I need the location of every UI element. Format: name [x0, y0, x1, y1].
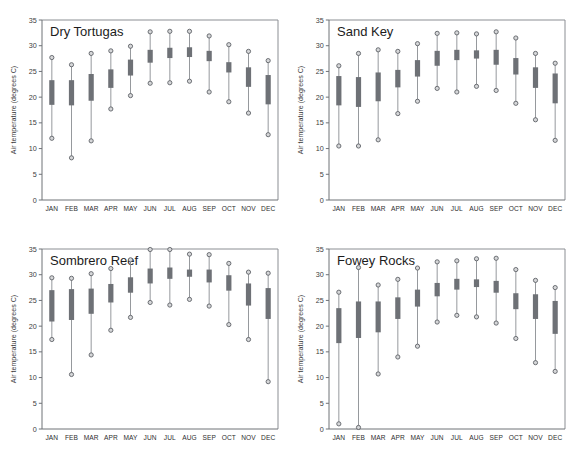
panel-dry-tortugas: 05101520253035Air temperature (degrees C…	[0, 0, 287, 229]
y-tick-label: 0	[33, 196, 37, 205]
interquartile-bar	[49, 80, 54, 105]
min-marker	[514, 101, 518, 105]
x-tick-label: FEB	[65, 434, 79, 441]
min-marker	[474, 84, 478, 88]
interquartile-bar	[266, 75, 271, 104]
box-group	[187, 29, 192, 83]
x-tick-label: NOV	[241, 205, 256, 212]
x-tick-label: NOV	[528, 205, 543, 212]
interquartile-bar	[415, 60, 420, 76]
min-marker	[376, 138, 380, 142]
min-marker	[533, 118, 537, 122]
min-marker	[128, 94, 132, 98]
max-marker	[168, 247, 172, 251]
x-tick-label: MAR	[84, 205, 99, 212]
max-marker	[69, 276, 73, 280]
max-marker	[109, 266, 113, 270]
interquartile-bar	[187, 270, 192, 277]
y-axis-label: Air temperature (degrees C)	[297, 295, 305, 383]
y-tick-label: 25	[316, 67, 324, 76]
interquartile-bar	[266, 288, 271, 319]
interquartile-bar	[226, 62, 231, 72]
box-group	[148, 30, 153, 86]
max-marker	[69, 63, 73, 67]
box-group	[494, 30, 499, 93]
x-tick-label: MAR	[371, 205, 386, 212]
interquartile-bar	[167, 48, 172, 58]
x-tick-label: AUG	[182, 205, 197, 212]
min-marker	[109, 328, 113, 332]
x-tick-label: DEC	[548, 434, 562, 441]
max-marker	[109, 49, 113, 53]
min-marker	[376, 372, 380, 376]
y-tick-label: 15	[29, 118, 37, 127]
x-tick-label: JUN	[431, 434, 444, 441]
y-axis-label: Air temperature (degrees C)	[10, 66, 18, 154]
interquartile-bar	[553, 73, 558, 103]
max-marker	[50, 276, 54, 280]
x-tick-label: OCT	[222, 205, 236, 212]
y-tick-label: 25	[316, 296, 324, 305]
max-marker	[415, 42, 419, 46]
min-marker	[246, 111, 250, 115]
plot-axes	[329, 20, 565, 200]
interquartile-bar	[356, 301, 361, 338]
y-tick-label: 5	[320, 399, 324, 408]
box-group	[49, 55, 54, 140]
min-marker	[187, 79, 191, 83]
x-tick-label: SEP	[202, 434, 216, 441]
max-marker	[266, 59, 270, 63]
interquartile-bar	[69, 289, 74, 320]
min-marker	[533, 361, 537, 365]
y-tick-label: 5	[33, 170, 37, 179]
panel-title: Dry Tortugas	[50, 24, 124, 39]
x-tick-label: JUN	[144, 434, 157, 441]
box-group	[226, 261, 231, 326]
interquartile-bar	[89, 289, 94, 314]
x-tick-label: OCT	[222, 434, 236, 441]
max-marker	[494, 256, 498, 260]
box-group	[356, 51, 361, 148]
min-marker	[109, 107, 113, 111]
max-marker	[187, 252, 191, 256]
box-group	[336, 290, 341, 426]
y-tick-label: 10	[316, 373, 324, 382]
panel-sand-key: 05101520253035Air temperature (degrees C…	[287, 0, 574, 229]
min-marker	[69, 372, 73, 376]
panel-title: Fowey Rocks	[337, 253, 416, 268]
interquartile-bar	[494, 50, 499, 65]
min-marker	[553, 138, 557, 142]
box-group	[376, 48, 381, 142]
y-tick-label: 25	[29, 296, 37, 305]
y-tick-label: 35	[29, 16, 37, 25]
box-group	[108, 49, 113, 111]
chart-0: 05101520253035Air temperature (degrees C…	[0, 0, 287, 229]
max-marker	[50, 55, 54, 59]
y-tick-label: 10	[29, 373, 37, 382]
interquartile-bar	[376, 72, 381, 101]
interquartile-bar	[108, 284, 113, 303]
min-marker	[227, 100, 231, 104]
box-group	[128, 44, 133, 98]
box-group	[246, 270, 251, 342]
box-group	[553, 285, 558, 373]
box-group	[474, 32, 479, 89]
y-tick-label: 35	[316, 245, 324, 254]
max-marker	[128, 44, 132, 48]
y-tick-label: 20	[29, 322, 37, 331]
y-tick-label: 30	[316, 41, 324, 50]
min-marker	[455, 313, 459, 317]
interquartile-bar	[435, 51, 440, 66]
interquartile-bar	[376, 301, 381, 332]
x-tick-label: FEB	[352, 434, 366, 441]
interquartile-bar	[336, 76, 341, 105]
max-marker	[227, 43, 231, 47]
max-marker	[396, 49, 400, 53]
box-group	[356, 265, 361, 429]
min-marker	[396, 112, 400, 116]
box-group	[187, 252, 192, 301]
interquartile-bar	[454, 50, 459, 60]
x-tick-label: FEB	[65, 205, 79, 212]
max-marker	[128, 258, 132, 262]
x-tick-label: AUG	[469, 434, 484, 441]
